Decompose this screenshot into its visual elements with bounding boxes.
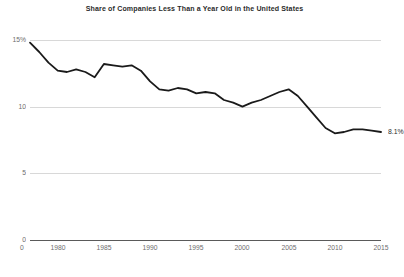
y-tick-label-15: 15% <box>3 35 26 44</box>
x-tick-label-1990: 1990 <box>143 243 158 252</box>
x-tick-label-1995: 1995 <box>189 243 204 252</box>
x-tick-label-2015: 2015 <box>373 243 388 252</box>
x-tick-label-2000: 2000 <box>235 243 250 252</box>
footer-caption <box>0 268 389 277</box>
end-value-label: 8.1% <box>388 127 404 136</box>
x-tick-label-1980: 1980 <box>50 243 65 252</box>
x-tick-label-origin: 0 <box>20 243 24 252</box>
x-tick-label-2010: 2010 <box>327 243 342 252</box>
y-tick-label-10: 10 <box>3 102 26 111</box>
chart-title: Share of Companies Less Than a Year Old … <box>12 4 378 13</box>
series-path <box>30 43 381 134</box>
gridline-0 <box>30 240 381 241</box>
x-tick-label-1985: 1985 <box>96 243 111 252</box>
y-tick-label-5: 5 <box>3 168 26 177</box>
x-tick-label-2005: 2005 <box>281 243 296 252</box>
series-line-chart <box>30 40 381 240</box>
